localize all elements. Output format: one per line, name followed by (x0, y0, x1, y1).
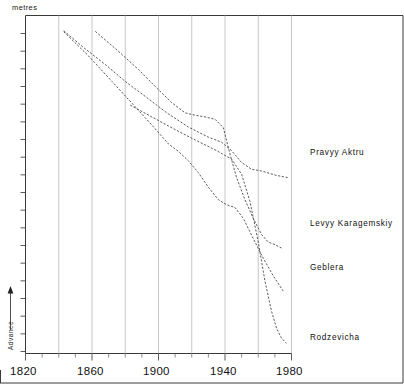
series-label-geblera: Geblera (310, 263, 344, 272)
x-tick-label-1900: 1900 (143, 365, 170, 377)
curve-rodzevicha (130, 105, 286, 343)
x-tick-label-1980: 1980 (276, 365, 303, 377)
advance-indicator: Advance (7, 286, 14, 350)
series-label-pravyy-aktru: Pravyy Aktru (310, 148, 364, 157)
x-axis-ticks (26, 354, 292, 361)
curve-levyy-karagemskiy (95, 31, 281, 248)
gridlines-group (59, 16, 292, 354)
series-label-levyy-karagemskiy: Levyy Karagemskiy (310, 219, 393, 228)
y-axis-ticks (21, 34, 26, 352)
y-axis-unit-label: metres (12, 3, 37, 12)
chart-svg: 1820 1860 1900 1940 1980 metres Advance … (0, 0, 404, 384)
axis-frame (0, 16, 403, 384)
curve-geblera (64, 32, 283, 291)
x-tick-label-1940: 1940 (210, 365, 237, 377)
x-tick-label-1860: 1860 (77, 365, 104, 377)
data-curves-group (64, 31, 288, 344)
advance-arrow-head (8, 286, 14, 294)
advance-axis-label: Advance (7, 321, 14, 350)
glacier-advance-chart: 1820 1860 1900 1940 1980 metres Advance … (0, 0, 404, 384)
x-tick-label-1820: 1820 (10, 365, 37, 377)
curve-pravyy-aktru (64, 31, 288, 178)
series-label-rodzevicha: Rodzevicha (310, 333, 360, 342)
